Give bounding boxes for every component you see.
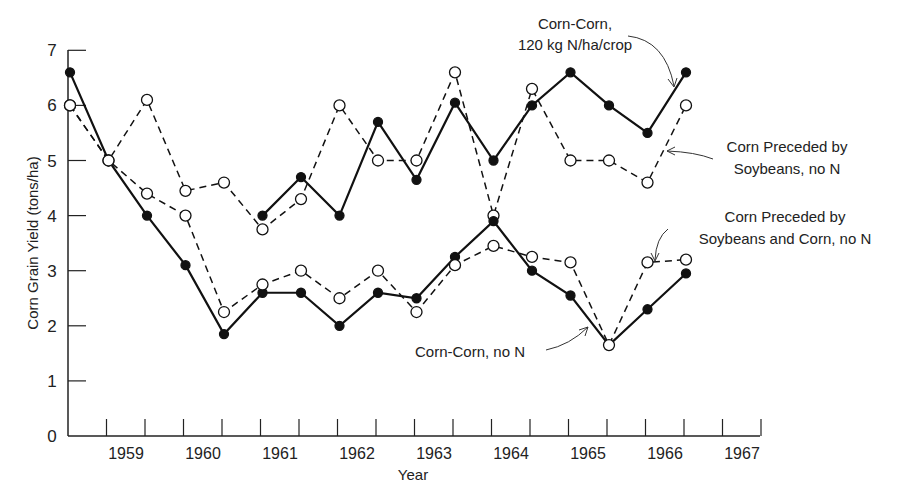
data-point (297, 173, 306, 182)
data-point (527, 251, 538, 262)
data-point (219, 177, 230, 188)
data-point (297, 288, 306, 297)
data-point (642, 177, 653, 188)
data-point (258, 211, 267, 220)
series-layer (65, 67, 692, 351)
y-tick-label: 0 (47, 427, 56, 446)
data-point (528, 266, 537, 275)
data-point (66, 68, 75, 77)
data-point (411, 307, 422, 318)
data-point (565, 155, 576, 166)
x-tick-label: 1967 (724, 445, 760, 462)
y-tick-label: 3 (47, 262, 56, 281)
x-tick-label: 1960 (185, 445, 221, 462)
data-point (257, 279, 268, 290)
line-chart: 01234567 1959196019611962196319641965196… (0, 0, 902, 500)
data-point (450, 260, 461, 271)
data-point (605, 101, 614, 110)
data-point (412, 175, 421, 184)
data-point (643, 128, 652, 137)
series-1 (65, 67, 692, 235)
x-tick-label: 1961 (262, 445, 298, 462)
data-point (451, 98, 460, 107)
data-point (528, 101, 537, 110)
data-point (450, 67, 461, 78)
data-point (180, 210, 191, 221)
data-point (411, 155, 422, 166)
data-point (374, 288, 383, 297)
data-point (296, 265, 307, 276)
annotation-text: Corn Preceded by (725, 208, 846, 225)
data-point (334, 100, 345, 111)
data-point (334, 293, 345, 304)
y-tick-label: 2 (47, 317, 56, 336)
data-point (604, 340, 615, 351)
annotation-corn-corn-120n: Corn-Corn, 120 kg N/ha/crop (518, 15, 677, 87)
data-point (682, 68, 691, 77)
data-point (488, 240, 499, 251)
data-point (142, 94, 153, 105)
y-axis-label: Corn Grain Yield (tons/ha) (24, 156, 41, 329)
annotation-corn-corn-no-n: Corn-Corn, no N (415, 327, 588, 360)
x-tick-label: 1964 (493, 445, 529, 462)
axes: 01234567 1959196019611962196319641965196… (47, 41, 761, 462)
data-point (566, 68, 575, 77)
data-point (257, 224, 268, 235)
x-tick-label: 1963 (416, 445, 452, 462)
annotation-text: 120 kg N/ha/crop (518, 36, 632, 53)
x-tick-label: 1959 (108, 445, 144, 462)
data-point (643, 305, 652, 314)
data-point (566, 291, 575, 300)
annotation-text: Soybeans, no N (734, 160, 841, 177)
data-point (373, 265, 384, 276)
data-point (142, 188, 153, 199)
annotation-text: Corn-Corn, no N (415, 343, 525, 360)
series-line (263, 72, 687, 215)
annotation-soybeans-no-n: Corn Preceded by Soybeans, no N (667, 138, 848, 177)
arrow-icon (628, 36, 674, 86)
x-tick-label: 1962 (339, 445, 375, 462)
data-point (489, 217, 498, 226)
x-tick-label: 1965 (570, 445, 606, 462)
x-tick-label: 1966 (647, 445, 683, 462)
data-point (335, 321, 344, 330)
annotation-text: Soybeans and Corn, no N (699, 230, 872, 247)
series-3 (65, 100, 692, 351)
series-line (70, 105, 686, 345)
data-point (65, 100, 76, 111)
data-point (527, 83, 538, 94)
data-point (681, 100, 692, 111)
data-point (143, 211, 152, 220)
series-line (70, 72, 686, 229)
data-point (181, 261, 190, 270)
series-2 (66, 68, 691, 350)
y-tick-label: 4 (47, 207, 56, 226)
data-point (642, 257, 653, 268)
series-line (70, 72, 686, 345)
annotation-text: Corn-Corn, (538, 15, 612, 32)
data-point (412, 294, 421, 303)
data-point (180, 185, 191, 196)
y-tick-label: 7 (47, 41, 56, 60)
annotation-soybeans-corn-no-n: Corn Preceded by Soybeans and Corn, no N (651, 208, 871, 261)
data-point (220, 330, 229, 339)
data-point (296, 194, 307, 205)
data-point (489, 156, 498, 165)
data-point (335, 211, 344, 220)
data-point (604, 155, 615, 166)
data-point (565, 257, 576, 268)
arrow-icon (655, 229, 668, 260)
annotation-text: Corn Preceded by (727, 138, 848, 155)
y-tick-label: 5 (47, 152, 56, 171)
data-point (681, 254, 692, 265)
data-point (682, 269, 691, 278)
y-tick-label: 6 (47, 96, 56, 115)
data-point (103, 155, 114, 166)
arrow-icon (546, 327, 588, 350)
x-axis-label: Year (398, 466, 428, 483)
data-point (373, 155, 384, 166)
data-point (219, 307, 230, 318)
data-point (374, 117, 383, 126)
y-tick-label: 1 (47, 372, 56, 391)
